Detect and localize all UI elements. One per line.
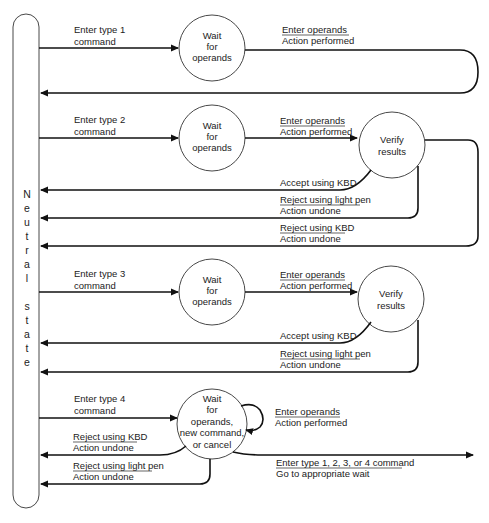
diagram-label: Enter type 1 bbox=[74, 24, 125, 35]
diagram-label: Enter type 3 bbox=[74, 268, 125, 279]
diagram-label: Action undone bbox=[73, 471, 134, 482]
verify-results-state-2 bbox=[359, 112, 425, 178]
diagram-label: Enter type 2 bbox=[74, 114, 125, 125]
diagram-label: Action performed bbox=[275, 417, 347, 428]
diagram-label: Go to appropriate wait bbox=[276, 468, 370, 479]
diagram-label: Enter operands bbox=[275, 406, 340, 417]
verify-results-state-3 bbox=[358, 266, 424, 332]
diagram-label: Wait bbox=[203, 274, 222, 285]
diagram-label: Enter type 1, 2, 3, or 4 command bbox=[276, 457, 414, 468]
row-type-3: Enter type 3 command Wait for operands E… bbox=[39, 259, 424, 372]
diagram-label: Wait bbox=[203, 120, 222, 131]
diagram-label: Enter operands bbox=[280, 115, 345, 126]
diagram-label: Action performed bbox=[280, 280, 352, 291]
diagram-label: Action undone bbox=[73, 442, 134, 453]
row-type-2: Enter type 2 command Wait for operands E… bbox=[39, 105, 478, 246]
diagram-label: l bbox=[26, 272, 28, 284]
diagram-label: e bbox=[24, 356, 30, 368]
diagram-label: Reject using KBD bbox=[73, 431, 148, 442]
diagram-label: t bbox=[26, 342, 29, 354]
diagram-label: Enter operands bbox=[282, 24, 347, 35]
diagram-label: new command, bbox=[180, 427, 244, 438]
go-to-wait-arrow bbox=[233, 452, 473, 455]
diagram-label: Wait bbox=[203, 393, 222, 404]
diagram-label: t bbox=[26, 314, 29, 326]
row-type-1: Enter type 1 command Wait for operands E… bbox=[39, 15, 478, 93]
diagram-label: u bbox=[24, 216, 30, 228]
diagram-label: for bbox=[206, 285, 217, 296]
diagram-label: command bbox=[74, 36, 116, 47]
diagram-label: Action undone bbox=[280, 359, 341, 370]
diagram-label: Reject using KBD bbox=[280, 222, 355, 233]
diagram-label: Enter operands bbox=[280, 269, 345, 280]
diagram-label: Accept using KBD bbox=[280, 177, 357, 188]
diagram-label: Verify bbox=[380, 134, 404, 145]
diagram-label: Verify bbox=[379, 288, 403, 299]
diagram-label: e bbox=[24, 202, 30, 214]
diagram-label: t bbox=[26, 230, 29, 242]
diagram-label: command bbox=[74, 405, 116, 416]
diagram-label: Action undone bbox=[280, 205, 341, 216]
diagram-label: command bbox=[74, 280, 116, 291]
action-performed-loop-1 bbox=[41, 50, 478, 93]
neutral-state: N e u t r a l s t a t e bbox=[13, 14, 39, 508]
diagram-label: command bbox=[74, 126, 116, 137]
diagram-label: operands bbox=[192, 296, 232, 307]
reject-light-pen-arrow-3 bbox=[41, 320, 418, 372]
diagram-label: results bbox=[378, 146, 406, 157]
diagram-label: operands bbox=[192, 142, 232, 153]
diagram-label: results bbox=[377, 300, 405, 311]
diagram-label: Action undone bbox=[280, 233, 341, 244]
diagram-label: for bbox=[206, 404, 217, 415]
diagram-label: Reject using light pen bbox=[280, 194, 371, 205]
diagram-label: Reject using light pen bbox=[73, 460, 164, 471]
state-transition-diagram: N e u t r a l s t a t e Enter type 1 com… bbox=[0, 0, 489, 523]
diagram-label: operands bbox=[192, 52, 232, 63]
diagram-label: Accept using KBD bbox=[280, 330, 357, 341]
diagram-label: Reject using light pen bbox=[280, 348, 371, 359]
diagram-label: Action performed bbox=[280, 126, 352, 137]
row-type-4: Enter type 4 command Wait for operands, … bbox=[39, 389, 473, 484]
reject-light-pen-arrow-2 bbox=[41, 166, 418, 218]
diagram-label: operands, bbox=[191, 416, 233, 427]
diagram-label: Action performed bbox=[282, 35, 354, 46]
diagram-label: Wait bbox=[203, 30, 222, 41]
diagram-label: a bbox=[24, 328, 30, 340]
diagram-label: N bbox=[23, 188, 31, 200]
diagram-label: Enter type 4 bbox=[74, 393, 125, 404]
diagram-label: r bbox=[25, 244, 29, 256]
diagram-label: for bbox=[206, 41, 217, 52]
diagram-label: a bbox=[24, 258, 30, 270]
diagram-label: for bbox=[206, 131, 217, 142]
diagram-label: s bbox=[24, 300, 29, 312]
diagram-label: or cancel bbox=[193, 439, 232, 450]
